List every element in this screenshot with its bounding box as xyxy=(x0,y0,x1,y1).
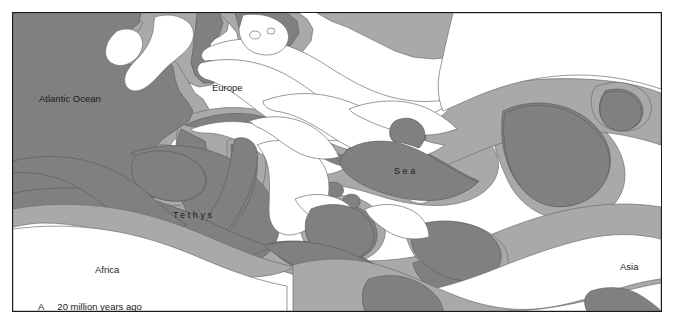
land-islet-b xyxy=(267,28,275,34)
land-islet-a xyxy=(250,31,261,39)
map-frame: Atlantic Ocean Europe Sea Tethys Africa … xyxy=(12,12,662,312)
figure-caption: A 20 million years ago xyxy=(38,301,142,312)
caption-text: 20 million years ago xyxy=(57,301,142,312)
caption-panel-letter: A xyxy=(38,301,44,312)
paleogeographic-figure: Atlantic Ocean Europe Sea Tethys Africa … xyxy=(0,0,674,325)
map-canvas xyxy=(13,13,661,311)
